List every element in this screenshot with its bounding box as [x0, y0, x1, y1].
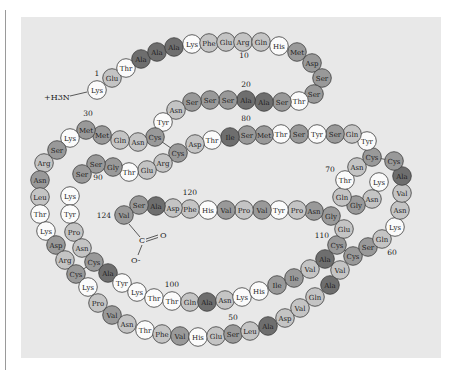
- residue-55: Gln: [306, 288, 325, 307]
- position-label-60: 60: [387, 248, 397, 257]
- position-label-120: 120: [183, 188, 198, 197]
- residue-92: Tyr: [61, 205, 80, 224]
- c-terminus-carbon: C: [139, 236, 145, 245]
- residue-label: Val: [396, 190, 409, 198]
- residue-label: Lys: [82, 284, 94, 292]
- position-label-80: 80: [241, 114, 251, 123]
- residue-101: Gln: [181, 293, 200, 312]
- residue-label: Val: [294, 305, 307, 313]
- residue-label: Glu: [220, 39, 233, 47]
- residue-7: Lys: [183, 35, 202, 54]
- residue-label: Ser: [90, 161, 103, 169]
- residue-label: Leu: [33, 194, 47, 202]
- residue-label: Gly: [107, 164, 119, 172]
- residue-label: Lys: [91, 87, 103, 95]
- residue-label: Cys: [70, 271, 83, 279]
- residue-label: Met: [290, 49, 304, 57]
- residue-label: Ser: [362, 244, 375, 252]
- residue-33: Arg: [35, 154, 54, 173]
- residue-label: Pro: [68, 229, 80, 237]
- residue-label: Cys: [388, 158, 401, 166]
- residue-label: Ser: [133, 202, 146, 210]
- residue-122: Ala: [147, 197, 166, 216]
- residue-41: Lys: [79, 278, 98, 297]
- residue-label: Val: [334, 267, 347, 275]
- residue-117: Pro: [235, 201, 254, 220]
- position-label-124: 124: [97, 211, 112, 220]
- residue-90: Ser: [73, 165, 92, 184]
- residue-18: Ser: [273, 93, 292, 112]
- residue-label: Gln: [376, 236, 389, 244]
- residue-label: Asp: [48, 242, 63, 250]
- residue-label: Pro: [92, 300, 104, 308]
- residue-10: Arg: [234, 33, 253, 52]
- residue-label: Arg: [37, 160, 51, 168]
- residue-label: Ala: [167, 44, 179, 52]
- residue-label: Tyr: [361, 138, 374, 146]
- residue-label: Ile: [289, 275, 298, 283]
- residue-label: Cys: [149, 134, 162, 142]
- residue-label: Cys: [331, 242, 344, 250]
- residue-label: Asn: [392, 207, 407, 215]
- residue-label: Ser: [241, 132, 254, 140]
- residue-62: Asn: [391, 201, 410, 220]
- residue-label: Phe: [202, 40, 215, 48]
- residue-74: Gln: [343, 125, 362, 144]
- residue-1: Lys: [88, 81, 107, 100]
- residue-label: Glu: [106, 75, 119, 83]
- residue-label: Tyr: [273, 207, 286, 215]
- residue-61: Lys: [386, 218, 405, 237]
- residue-119: His: [199, 201, 218, 220]
- residue-label: Met: [95, 132, 109, 140]
- residue-52: Ala: [259, 317, 278, 336]
- c-terminus-single-oxygen: O-: [131, 256, 141, 265]
- residue-label: His: [253, 288, 265, 296]
- residue-label: Arg: [236, 39, 250, 47]
- position-label-100: 100: [165, 280, 180, 289]
- residue-label: Ala: [101, 270, 113, 278]
- residue-106: Ile: [268, 276, 287, 295]
- residue-114: Pro: [288, 201, 307, 220]
- residue-label: Pro: [238, 207, 250, 215]
- residue-label: Lys: [373, 179, 385, 187]
- residue-label: Asp: [277, 315, 292, 323]
- residue-100: Thr: [163, 292, 182, 311]
- residue-48: His: [189, 328, 208, 347]
- residue-label: Thr: [206, 137, 219, 145]
- residue-label: Ser: [276, 99, 289, 107]
- residue-label: Thr: [148, 295, 161, 303]
- residue-label: Asn: [306, 208, 321, 216]
- residue-label: Cys: [347, 253, 360, 261]
- residue-115: Tyr: [270, 201, 289, 220]
- residue-label: Gly: [325, 213, 337, 221]
- residue-66: Lys: [370, 173, 389, 192]
- residue-label: Lys: [40, 228, 52, 236]
- residue-121: Asp: [164, 199, 183, 218]
- residue-label: Arg: [156, 160, 170, 168]
- residue-5: Ala: [148, 43, 167, 62]
- residue-27: Asn: [129, 133, 148, 152]
- residue-label: Val: [106, 312, 119, 320]
- residue-50: Ser: [224, 325, 243, 344]
- residue-21: Ser: [219, 91, 238, 110]
- residue-label: Gly: [350, 202, 362, 210]
- residue-86: Glu: [138, 161, 157, 180]
- residue-label: Ser: [329, 131, 342, 139]
- residues: LysGluThrAlaAlaAlaLysPheGluArgGlnHisMetA…: [31, 33, 412, 347]
- residue-36: Thr: [31, 205, 50, 224]
- residue-19: Ala: [255, 93, 274, 112]
- position-label-110: 110: [315, 231, 330, 240]
- residue-label: Met: [257, 132, 271, 140]
- residue-51: Leu: [241, 322, 260, 341]
- residue-26: Cys: [146, 128, 165, 147]
- residue-label: Gln: [255, 39, 268, 47]
- residue-label: Asn: [130, 139, 145, 147]
- residue-label: Met: [79, 127, 93, 135]
- residue-label: Cys: [366, 154, 379, 162]
- residue-99: Thr: [145, 289, 164, 308]
- residue-label: Thr: [166, 298, 179, 306]
- position-label-30: 30: [83, 109, 93, 118]
- residue-label: Ala: [150, 49, 162, 57]
- residue-label: Lys: [64, 135, 76, 143]
- residue-label: Ala: [149, 203, 161, 211]
